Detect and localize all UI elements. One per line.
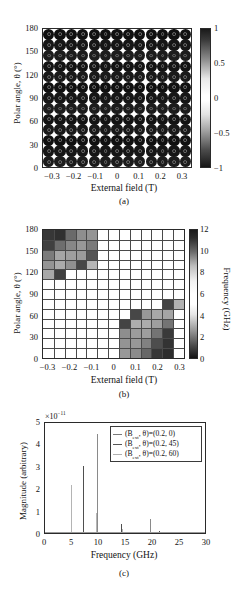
panel-a-marker-ring: [115, 32, 119, 36]
panel-b-heatmap-cell: [54, 250, 65, 260]
panel-a-marker-ring: [138, 149, 142, 153]
panel-a-marker-ring: [161, 117, 165, 121]
panel-a-marker: [146, 82, 157, 93]
panel-b-heatmap-cell: [65, 309, 76, 319]
panel-b-heatmap-cell: [43, 269, 54, 279]
panel-a-marker: [111, 135, 122, 146]
panel-a-marker-ring: [104, 117, 108, 121]
panel-a-marker-ring: [149, 85, 153, 89]
panel-a-marker: [66, 135, 77, 146]
panel-a-marker-ring: [172, 85, 176, 89]
panel-a-x-ticks: −0.3−0.2−0.100.10.20.3: [42, 171, 192, 183]
panel-a-marker-ring: [92, 64, 96, 68]
panel-b-y-tick: 120: [25, 267, 38, 277]
panel-a-marker-ring: [183, 160, 187, 164]
panel-b-heatmap-cell: [43, 240, 54, 250]
panel-a-marker-ring: [92, 32, 96, 36]
panel-b-heatmap-cell: [76, 250, 87, 260]
panel-a-marker: [111, 50, 122, 61]
panel-b-heatmap-cell: [43, 279, 54, 289]
panel-b-heatmap-cell: [54, 338, 65, 348]
panel-a-marker: [146, 114, 157, 125]
panel-a-marker-ring: [149, 139, 153, 143]
panel-b-colorbar-tick: 12: [200, 224, 209, 234]
panel-b-heatmap-cell: [86, 279, 97, 289]
panel-a-marker: [77, 145, 88, 156]
panel-a-marker: [43, 114, 54, 125]
panel-a-marker: [89, 145, 100, 156]
panel-a-marker-ring: [161, 128, 165, 132]
panel-a-marker: [100, 82, 111, 93]
panel-b-heatmap-cell: [141, 309, 152, 319]
panel-a-marker-ring: [183, 96, 187, 100]
panel-c-y-tick: 1: [36, 507, 40, 517]
panel-b-heatmap-cell: [65, 338, 76, 348]
panel-a-marker: [180, 71, 191, 82]
panel-a-marker: [123, 124, 134, 135]
panel-a-marker-ring: [161, 32, 165, 36]
panel-a-marker-ring: [92, 139, 96, 143]
panel-a-marker: [168, 103, 179, 114]
panel-a-marker: [123, 156, 134, 167]
panel-b-heatmap-cell: [130, 289, 141, 299]
panel-b-heatmap-cell: [97, 230, 108, 240]
panel-a-marker-ring: [149, 107, 153, 111]
panel-a-marker: [89, 156, 100, 167]
panel-b-heatmap-cell: [86, 309, 97, 319]
panel-b-heatmap-cell: [162, 338, 173, 348]
panel-a-marker: [134, 145, 145, 156]
panel-a-marker-ring: [81, 54, 85, 58]
panel-a-marker: [66, 103, 77, 114]
panel-c-y-tick: 5: [36, 417, 40, 427]
panel-a-marker-ring: [126, 54, 130, 58]
panel-a-marker-ring: [81, 149, 85, 153]
panel-a-marker-ring: [126, 117, 130, 121]
panel-b-heatmap-cell: [43, 260, 54, 270]
panel-a-marker-ring: [58, 149, 62, 153]
panel-a-marker: [111, 103, 122, 114]
panel-b-heatmap-cell: [173, 328, 184, 338]
panel-b-gridline-horizontal: [43, 279, 184, 280]
panel-a-marker-ring: [47, 117, 51, 121]
panel-a-marker-ring: [92, 128, 96, 132]
panel-b-x-tick: 0.2: [152, 362, 163, 372]
panel-b-heatmap-cell: [151, 328, 162, 338]
panel-b-heatmap-cell: [130, 230, 141, 240]
panel-a-marker-ring: [138, 139, 142, 143]
panel-a-marker: [54, 114, 65, 125]
panel-b-heatmap-cell: [97, 328, 108, 338]
panel-a-marker: [157, 114, 168, 125]
panel-a-y-tick: 180: [25, 23, 38, 33]
panel-b-heatmap-cell: [65, 240, 76, 250]
panel-a-marker-ring: [172, 117, 176, 121]
panel-b-x-tick: −0.1: [84, 362, 99, 372]
panel-a-marker: [180, 124, 191, 135]
panel-a-marker: [100, 39, 111, 50]
panel-a-marker: [157, 103, 168, 114]
panel-a-marker: [66, 50, 77, 61]
panel-a-marker: [123, 29, 134, 40]
panel-b-y-tick: 0: [34, 354, 38, 364]
panel-a-marker-ring: [58, 75, 62, 79]
panel-a-marker-ring: [115, 149, 119, 153]
panel-a-marker-ring: [92, 107, 96, 111]
panel-b-x-tick: −0.2: [62, 362, 77, 372]
panel-a-marker: [100, 145, 111, 156]
panel-b-heatmap-cell: [76, 309, 87, 319]
panel-b-heatmap-cell: [65, 289, 76, 299]
panel-b-heatmap-cell: [108, 279, 119, 289]
panel-a-marker: [111, 92, 122, 103]
panel-b-heatmap-cell: [151, 299, 162, 309]
panel-a-marker: [89, 50, 100, 61]
panel-a-marker: [123, 92, 134, 103]
panel-a-marker: [111, 114, 122, 125]
panel-a-marker-ring: [58, 139, 62, 143]
panel-a-marker-ring: [47, 43, 51, 47]
panel-a-marker: [66, 82, 77, 93]
panel-a-marker-ring: [81, 64, 85, 68]
panel-a-marker-ring: [92, 43, 96, 47]
panel-a-marker: [66, 145, 77, 156]
panel-b-heatmap-cell: [54, 230, 65, 240]
panel-b-heatmap-cell: [54, 260, 65, 270]
panel-b-heatmap-cell: [76, 230, 87, 240]
